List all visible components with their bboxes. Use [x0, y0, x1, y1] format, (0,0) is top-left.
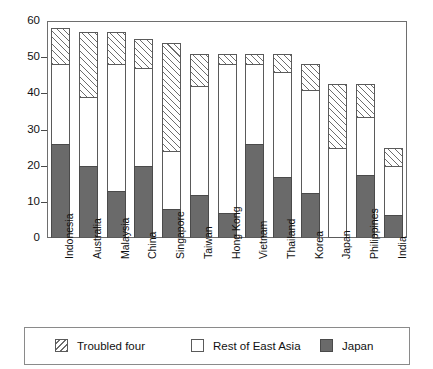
bar-segment	[218, 54, 237, 65]
bar-group	[384, 148, 403, 238]
x-tick-label: Korea	[314, 240, 325, 259]
bar-group	[245, 54, 264, 238]
legend-label: Rest of East Asia	[213, 340, 301, 352]
bar-segment	[190, 54, 209, 87]
bar-segment	[134, 39, 153, 68]
legend-swatch-icon	[320, 339, 333, 352]
bar-group	[190, 54, 209, 238]
bars-layer	[47, 21, 407, 238]
legend-item[interactable]: Rest of East Asia	[191, 339, 301, 352]
stacked-bar-chart: 0102030405060 IndonesiaAustraliaMalaysia…	[0, 0, 433, 369]
bar-group	[301, 64, 320, 238]
x-tick-label: Hong Kong	[231, 240, 242, 259]
y-tick-label: 50	[27, 51, 40, 63]
bar-segment	[356, 84, 375, 117]
x-tick-label: Malaysia	[120, 240, 131, 259]
bar-segment	[218, 64, 237, 212]
bar-segment	[245, 64, 264, 144]
y-axis: 0102030405060	[0, 0, 47, 260]
bar-segment	[328, 84, 347, 147]
x-tick-label: Indonesia	[64, 240, 75, 259]
bar-segment	[356, 117, 375, 175]
legend-label: Troubled four	[77, 340, 145, 352]
bar-segment	[301, 64, 320, 89]
bar-segment	[273, 72, 292, 177]
x-axis: IndonesiaAustraliaMalaysiaChinaSingapore…	[47, 240, 407, 325]
bar-group	[107, 32, 126, 238]
legend-item[interactable]: Japan	[320, 339, 373, 352]
y-tick-label: 60	[27, 15, 40, 27]
legend-swatch-icon	[55, 339, 68, 352]
x-tick-label: Singapore	[175, 240, 186, 259]
bar-segment	[51, 64, 70, 144]
bar-group	[51, 28, 70, 238]
x-tick-label: Taiwan	[203, 240, 214, 259]
bar-segment	[162, 43, 181, 152]
bar-segment	[328, 148, 347, 238]
bar-group	[328, 84, 347, 238]
bar-segment	[107, 64, 126, 191]
bar-segment	[79, 32, 98, 97]
bar-segment	[384, 148, 403, 166]
bar-group	[79, 32, 98, 238]
bar-segment	[273, 54, 292, 72]
x-tick-label: India	[397, 240, 408, 259]
y-tick-label: 30	[27, 124, 40, 136]
bar-segment	[107, 32, 126, 65]
y-tick-label: 20	[27, 160, 40, 172]
bar-group	[273, 54, 292, 238]
bar-segment	[79, 97, 98, 166]
x-tick-label: Philippines	[369, 240, 380, 259]
x-tick-label: Australia	[92, 240, 103, 259]
bar-segment	[134, 166, 153, 238]
bar-segment	[134, 68, 153, 166]
legend-item[interactable]: Troubled four	[55, 339, 145, 352]
bar-segment	[190, 86, 209, 195]
bar-segment	[301, 90, 320, 193]
y-tick-label: 40	[27, 88, 40, 100]
bar-group	[134, 39, 153, 238]
bar-segment	[162, 151, 181, 209]
bar-group	[162, 43, 181, 238]
legend-label: Japan	[342, 340, 373, 352]
x-tick-label: Vietnam	[258, 240, 269, 259]
legend-swatch-icon	[191, 339, 204, 352]
bar-segment	[384, 215, 403, 239]
chart-legend: Troubled fourRest of East AsiaJapan	[24, 327, 410, 365]
bar-segment	[384, 166, 403, 215]
bar-segment	[245, 54, 264, 65]
x-tick-label: China	[147, 240, 158, 259]
x-tick-label: Thailand	[286, 240, 297, 259]
y-tick-label: 10	[27, 196, 40, 208]
x-tick-label: Japan	[341, 240, 352, 259]
bar-segment	[51, 28, 70, 64]
y-tick-label: 0	[34, 232, 40, 244]
